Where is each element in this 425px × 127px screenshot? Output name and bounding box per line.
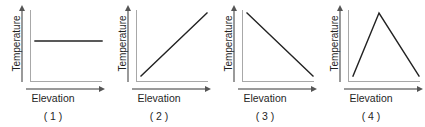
curve-peak [349, 10, 421, 82]
plot-area-4 [348, 10, 420, 82]
graph-panel-1: Temperature Elevation ( 1 ) [0, 0, 106, 127]
y-axis-label-3: Temperature [223, 10, 234, 78]
elevation-axis-arrow-icon [132, 88, 206, 90]
y-axis-label-2: Temperature [117, 10, 128, 78]
x-axis-label-1: Elevation [0, 92, 106, 104]
plot-area-2 [136, 10, 208, 82]
panel-caption-4: ( 4 ) [318, 110, 424, 122]
panel-caption-3: ( 3 ) [212, 110, 318, 122]
y-axis-label-1: Temperature [11, 10, 22, 78]
graph-panel-3: Temperature Elevation ( 3 ) [212, 0, 318, 127]
x-axis-label-2: Elevation [106, 92, 212, 104]
x-axis-label-4: Elevation [318, 92, 424, 104]
curve-increasing [137, 10, 209, 82]
y-axis-label-4: Temperature [329, 10, 340, 78]
elevation-axis-arrow-icon [344, 88, 418, 90]
graph-panel-4: Temperature Elevation ( 4 ) [318, 0, 424, 127]
elevation-axis-arrow-icon [26, 88, 100, 90]
curve-decreasing [243, 10, 315, 82]
curve-constant [31, 10, 103, 82]
plot-area-3 [242, 10, 314, 82]
elevation-temperature-figure: Temperature Elevation ( 1 ) Temperature … [0, 0, 425, 127]
graph-panel-2: Temperature Elevation ( 2 ) [106, 0, 212, 127]
x-axis-label-3: Elevation [212, 92, 318, 104]
elevation-axis-arrow-icon [238, 88, 312, 90]
plot-area-1 [30, 10, 102, 82]
panel-caption-1: ( 1 ) [0, 110, 106, 122]
panel-caption-2: ( 2 ) [106, 110, 212, 122]
